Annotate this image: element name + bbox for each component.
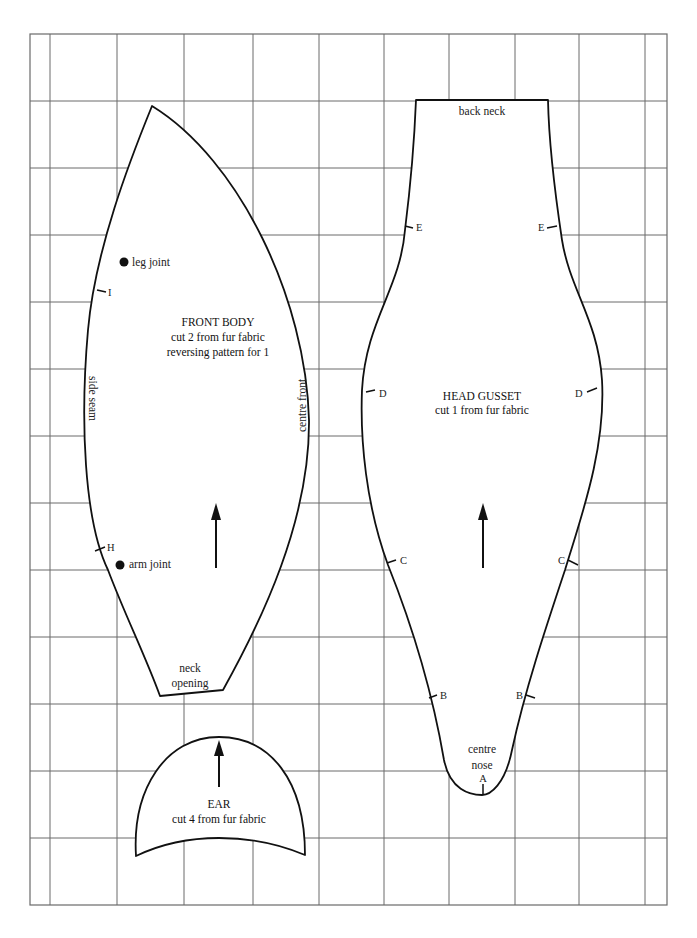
ear-cut-text: cut 4 from fur fabric [172,813,266,825]
front-body-piece [84,106,309,696]
arm-joint-label: arm joint [129,558,172,571]
centre-label: centre [468,743,496,755]
head-gusset-title: HEAD GUSSET [443,390,521,402]
front-body-reverse-text: reversing pattern for 1 [167,346,270,359]
mark-c-left-label: C [400,555,407,566]
arm-joint-dot [116,561,125,570]
centre-front-label: centre front [296,378,308,432]
ear-piece [136,737,305,856]
mark-c-right-label: C [558,555,565,566]
mark-i-label: I [108,287,112,298]
mark-c-right-tick [568,560,578,565]
leg-joint-label: leg joint [132,256,171,269]
neck-label: neck [179,662,201,674]
mark-h-label: H [107,542,115,553]
mark-a-label: A [479,773,487,784]
ear-title: EAR [208,798,231,810]
leg-joint-dot [120,258,129,267]
front-body-cut-text: cut 2 from fur fabric [171,331,265,343]
head-gusset-outline [362,100,603,795]
head-gusset-piece [362,100,603,795]
mark-b-right-tick [526,695,535,698]
mark-e-left-label: E [416,222,422,233]
mark-b-right-label: B [516,690,523,701]
mark-d-left-label: D [379,388,387,399]
pattern-sheet: leg joint I FRONT BODY cut 2 from fur fa… [0,0,697,938]
mark-b-left-label: B [440,690,447,701]
head-gusset-cut-text: cut 1 from fur fabric [435,404,529,416]
nose-label: nose [471,759,492,771]
mark-d-right-label: D [575,388,583,399]
opening-label: opening [171,677,208,690]
front-body-title: FRONT BODY [182,316,256,328]
side-seam-label: side seam [87,376,99,421]
back-neck-label: back neck [459,105,506,117]
front-body-outline [84,106,309,696]
mark-e-right-label: E [538,222,544,233]
